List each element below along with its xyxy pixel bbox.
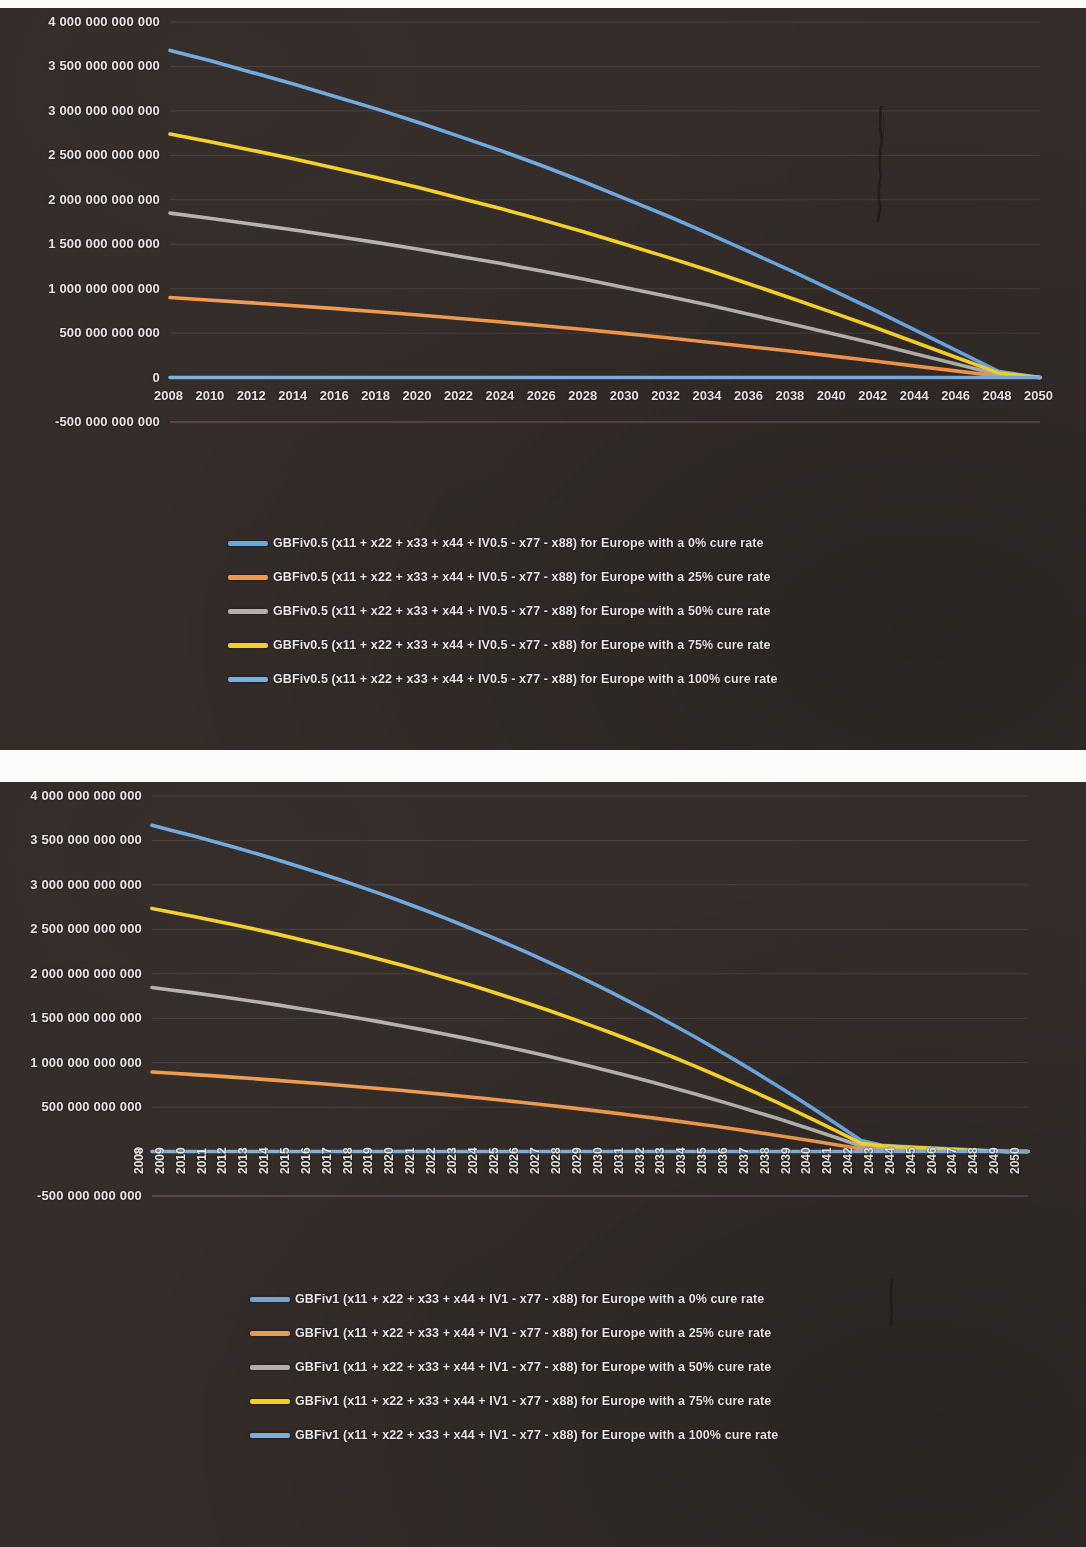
legend-swatch-icon [250,1399,290,1404]
x-tick-label: 2045 [904,1147,918,1174]
page-root: 4 000 000 000 0003 500 000 000 0003 000 … [0,0,1086,1547]
series-line-2 [152,988,1028,1152]
legend-label: GBFiv0.5 (x11 + x22 + x33 + x44 + IV0.5 … [273,638,771,652]
series-line-0 [152,825,1028,1151]
legend-label: GBFiv0.5 (x11 + x22 + x33 + x44 + IV0.5 … [273,536,764,550]
x-tick-label: 2034 [693,388,722,403]
x-tick-label: 2027 [528,1147,542,1174]
y-tick-label: 3 000 000 000 000 [0,103,160,118]
series-line-3 [152,908,1028,1151]
x-tick-label: 2041 [820,1147,834,1174]
x-tick-label: 2018 [341,1147,355,1174]
x-tick-label: 2029 [570,1147,584,1174]
legend-swatch-icon [228,541,268,546]
legend-item-4[interactable]: GBFiv0.5 (x11 + x22 + x33 + x44 + IV0.5 … [228,662,778,696]
x-tick-label: 2020 [403,388,432,403]
x-tick-label: 2035 [695,1147,709,1174]
x-tick-label: 2049 [987,1147,1001,1174]
legend-label: GBFiv1 (x11 + x22 + x33 + x44 + IV1 - x7… [295,1360,771,1374]
legend-item-3[interactable]: GBFiv0.5 (x11 + x22 + x33 + x44 + IV0.5 … [228,628,778,662]
x-tick-label: 2024 [485,388,514,403]
x-tick-label: 2040 [817,388,846,403]
line-chart-bottom-svg [0,782,1086,1252]
x-tick-label: 2023 [445,1147,459,1174]
x-tick-label: 2010 [174,1147,188,1174]
x-tick-label: 2040 [799,1147,813,1174]
x-tick-label: 2026 [507,1147,521,1174]
legend-swatch-icon [250,1331,290,1336]
y-tick-label: 2 000 000 000 000 [0,966,142,981]
x-tick-label: 2034 [674,1147,688,1174]
x-tick-label: 2012 [215,1147,229,1174]
x-tick-label: 2048 [966,1147,980,1174]
chart-panel-top: 4 000 000 000 0003 500 000 000 0003 000 … [0,8,1086,750]
legend-label: GBFiv1 (x11 + x22 + x33 + x44 + IV1 - x7… [295,1326,771,1340]
y-tick-label: 2 500 000 000 000 [0,147,160,162]
x-tick-label: 2037 [737,1147,751,1174]
x-tick-label: 2014 [257,1147,271,1174]
legend-label: GBFiv1 (x11 + x22 + x33 + x44 + IV1 - x7… [295,1394,771,1408]
x-tick-label: 2021 [403,1147,417,1174]
legend-top: GBFiv0.5 (x11 + x22 + x33 + x44 + IV0.5 … [228,526,778,696]
legend-item-1[interactable]: GBFiv0.5 (x11 + x22 + x33 + x44 + IV0.5 … [228,560,778,594]
y-tick-label: 3 500 000 000 000 [0,832,142,847]
x-tick-label: 2012 [237,388,266,403]
y-tick-label: 0 [0,370,160,385]
y-tick-label: 1 000 000 000 000 [0,1055,142,1070]
x-tick-label: 2044 [883,1147,897,1174]
y-tick-label: 0 [0,1144,142,1159]
x-tick-label: 2044 [900,388,929,403]
legend-label: GBFiv0.5 (x11 + x22 + x33 + x44 + IV0.5 … [273,604,771,618]
x-tick-label: 2036 [734,388,763,403]
x-tick-label: 2028 [568,388,597,403]
line-chart-top-svg [0,8,1086,478]
x-tick-label: 2008 [132,1147,146,1174]
x-tick-label: 2038 [758,1147,772,1174]
x-tick-label: 2032 [651,388,680,403]
legend-item-2[interactable]: GBFiv1 (x11 + x22 + x33 + x44 + IV1 - x7… [250,1350,778,1384]
x-tick-label: 2024 [466,1147,480,1174]
x-tick-label: 2039 [779,1147,793,1174]
x-tick-label: 2050 [1024,388,1053,403]
x-tick-label: 2022 [424,1147,438,1174]
x-tick-label: 2015 [278,1147,292,1174]
x-tick-label: 2042 [841,1147,855,1174]
series-line-1 [170,298,1040,378]
legend-swatch-icon [250,1365,290,1370]
chart-panel-bottom: 4 000 000 000 0003 500 000 000 0003 000 … [0,782,1086,1547]
y-tick-label: 2 500 000 000 000 [0,921,142,936]
legend-item-0[interactable]: GBFiv0.5 (x11 + x22 + x33 + x44 + IV0.5 … [228,526,778,560]
x-tick-label: 2046 [941,388,970,403]
y-tick-label: 3 000 000 000 000 [0,877,142,892]
plot-area-bottom [0,782,1086,1252]
y-tick-label: 4 000 000 000 000 [0,788,142,803]
y-tick-label: 1 500 000 000 000 [0,1010,142,1025]
legend-label: GBFiv1 (x11 + x22 + x33 + x44 + IV1 - x7… [295,1292,764,1306]
legend-swatch-icon [228,643,268,648]
legend-label: GBFiv0.5 (x11 + x22 + x33 + x44 + IV0.5 … [273,672,778,686]
series-line-3 [170,134,1040,378]
legend-item-0[interactable]: GBFiv1 (x11 + x22 + x33 + x44 + IV1 - x7… [250,1282,778,1316]
x-tick-label: 2047 [945,1147,959,1174]
x-tick-label: 2011 [195,1148,209,1174]
x-tick-label: 2025 [487,1147,501,1174]
x-tick-label: 2010 [195,388,224,403]
x-tick-label: 2016 [299,1147,313,1174]
y-tick-label: 500 000 000 000 [0,1099,142,1114]
x-tick-label: 2038 [775,388,804,403]
page-gap-between-charts [0,750,1086,782]
x-tick-label: 2050 [1008,1147,1022,1174]
x-tick-label: 2043 [862,1147,876,1174]
legend-item-3[interactable]: GBFiv1 (x11 + x22 + x33 + x44 + IV1 - x7… [250,1384,778,1418]
legend-label: GBFiv0.5 (x11 + x22 + x33 + x44 + IV0.5 … [273,570,771,584]
series-line-1 [152,1072,1028,1152]
x-tick-label: 2013 [236,1147,250,1174]
legend-label: GBFiv1 (x11 + x22 + x33 + x44 + IV1 - x7… [295,1428,778,1442]
legend-item-4[interactable]: GBFiv1 (x11 + x22 + x33 + x44 + IV1 - x7… [250,1418,778,1452]
legend-item-2[interactable]: GBFiv0.5 (x11 + x22 + x33 + x44 + IV0.5 … [228,594,778,628]
plot-area-top [0,8,1086,478]
legend-item-1[interactable]: GBFiv1 (x11 + x22 + x33 + x44 + IV1 - x7… [250,1316,778,1350]
x-tick-label: 2033 [653,1147,667,1174]
y-tick-label: -500 000 000 000 [0,414,160,429]
x-tick-label: 2014 [278,388,307,403]
